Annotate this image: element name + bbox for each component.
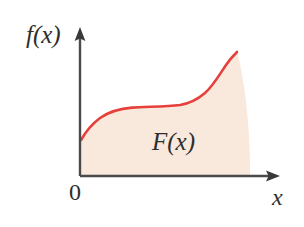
origin-label: 0 bbox=[69, 180, 81, 204]
y-axis-label: f(x) bbox=[26, 22, 61, 47]
x-axis-label: x bbox=[272, 185, 283, 209]
figure-container: f(x) x 0 F(x) bbox=[0, 0, 304, 227]
area-region-label: F(x) bbox=[152, 129, 195, 154]
